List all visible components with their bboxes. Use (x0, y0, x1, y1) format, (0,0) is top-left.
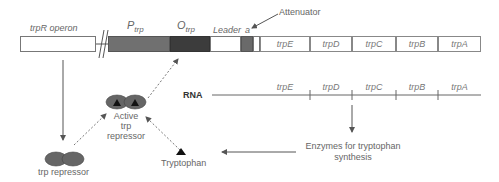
enzymes-label: Enzymes for tryptophan synthesis (300, 141, 406, 163)
leader-segment (210, 36, 241, 52)
rna-gene-trpB: trpB (396, 82, 438, 92)
operator-segment (170, 36, 210, 52)
gene-trpB: trpB (396, 36, 438, 52)
gene-trpC: trpC (352, 36, 396, 52)
rna-gene-trpE: trpE (260, 82, 310, 92)
operator-label: Otrp (177, 19, 195, 34)
tryptophan-label: Tryptophan (161, 158, 206, 168)
leader-label: Leader (213, 25, 241, 35)
rna-label: RNA (183, 90, 203, 100)
trpR-gene-box (20, 36, 96, 52)
active-repressor-label: Active trp repressor (104, 111, 148, 141)
promoter-label: Ptrp (127, 19, 144, 34)
rna-gene-trpD: trpD (310, 82, 352, 92)
attenuator-short-label: a (245, 25, 250, 35)
promoter-segment (108, 36, 170, 52)
repressor-activation-arrow (74, 114, 106, 145)
trpR-operon-label: trpR operon (30, 23, 78, 33)
tryptophan-icon (176, 148, 186, 155)
operator-binding-arrow (148, 59, 178, 98)
spacer-segment (253, 36, 260, 52)
tryptophan-binding-arrow (146, 117, 180, 150)
attenuator-label: Attenuator (279, 7, 321, 17)
gene-trpA: trpA (438, 36, 481, 52)
attenuator-segment (241, 36, 253, 52)
gene-trpE: trpE (260, 36, 310, 52)
rna-gene-trpA: trpA (438, 82, 481, 92)
repressor-label: trp repressor (38, 167, 89, 177)
rna-gene-trpC: trpC (352, 82, 396, 92)
active-repressor-icon (106, 95, 146, 109)
repressor-icon (45, 152, 84, 166)
gene-trpD: trpD (310, 36, 352, 52)
attenuator-pointer (252, 14, 278, 28)
